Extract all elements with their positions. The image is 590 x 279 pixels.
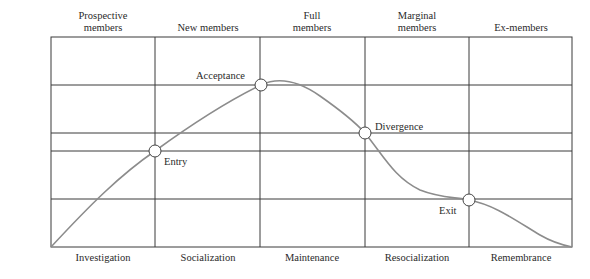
phase-label-line1: Prospective	[79, 10, 128, 22]
phase-label-full-members: Full members	[293, 10, 332, 34]
divergence-marker	[359, 127, 371, 139]
exit-label: Exit	[439, 205, 457, 217]
commitment-curve	[51, 81, 572, 247]
phase-label-new-members: New members	[178, 22, 239, 34]
phase-label-line2: Ex-members	[494, 22, 548, 34]
process-label-investigation: Investigation	[76, 252, 131, 264]
acceptance-label: Acceptance	[196, 70, 245, 82]
process-label-remembrance: Remembrance	[491, 252, 552, 264]
process-label-resocialization: Resocialization	[385, 252, 450, 264]
diagram-canvas	[0, 0, 590, 279]
phase-label-line2: members	[293, 22, 332, 34]
phase-label-line1: Full	[293, 10, 332, 22]
phase-label-prospective: Prospective members	[79, 10, 128, 34]
entry-label: Entry	[164, 156, 187, 168]
exit-marker	[463, 194, 475, 206]
process-label-maintenance: Maintenance	[285, 252, 339, 264]
entry-marker	[149, 145, 161, 157]
divergence-label: Divergence	[375, 121, 423, 133]
phase-label-marginal-members: Marginal members	[398, 10, 437, 34]
phase-label-line1: Marginal	[398, 10, 437, 22]
phase-label-line2: members	[79, 22, 128, 34]
phase-label-line2: members	[398, 22, 437, 34]
process-label-socialization: Socialization	[181, 252, 236, 264]
acceptance-marker	[255, 79, 267, 91]
phase-label-line2: New members	[178, 22, 239, 34]
chart-frame	[51, 37, 572, 247]
phase-label-ex-members: Ex-members	[494, 22, 548, 34]
